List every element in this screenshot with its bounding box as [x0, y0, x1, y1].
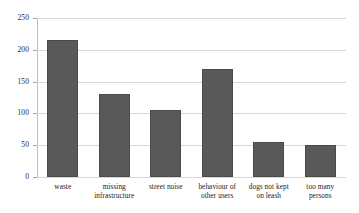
x-axis-category-label-line: other users: [192, 192, 244, 201]
plot-area: [37, 18, 346, 177]
x-axis-category-label: missinginfrastructure: [89, 183, 141, 200]
x-axis-category-label-line: on leash: [243, 192, 295, 201]
y-axis-tick: [33, 177, 37, 178]
x-axis-category-label: street noise: [140, 183, 192, 192]
gridline: [37, 177, 346, 178]
y-axis-tick-label: 50: [4, 141, 29, 149]
x-axis-category-label-line: persons: [295, 192, 347, 201]
y-axis-tick-label: 250: [4, 14, 29, 22]
x-axis-category-label: dogs not kepton leash: [243, 183, 295, 200]
x-axis-category-label-line: infrastructure: [89, 192, 141, 201]
y-axis-tick-label: 150: [4, 78, 29, 86]
bar[interactable]: [150, 110, 181, 177]
bar[interactable]: [305, 145, 336, 177]
x-axis-category-label: waste: [37, 183, 89, 192]
bar[interactable]: [202, 69, 233, 177]
x-axis-category-label-line: street noise: [140, 183, 192, 192]
bar[interactable]: [47, 40, 78, 177]
x-axis-category-label: too manypersons: [295, 183, 347, 200]
y-axis-tick-label: 0: [4, 173, 29, 181]
y-axis-tick-label: 100: [4, 109, 29, 117]
x-axis-category-label: behaviour ofother users: [192, 183, 244, 200]
bar[interactable]: [253, 142, 284, 177]
bar-chart: 050100150200250 wastemissinginfrastructu…: [0, 0, 359, 213]
x-axis-category-label-line: waste: [37, 183, 89, 192]
bar[interactable]: [99, 94, 130, 177]
y-axis-tick-label: 200: [4, 46, 29, 54]
